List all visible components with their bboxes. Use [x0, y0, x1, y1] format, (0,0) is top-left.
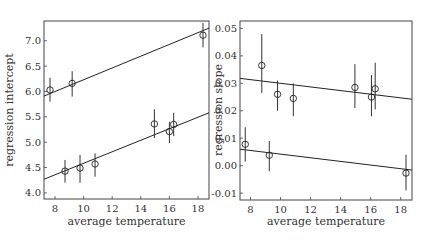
figure: 810121416184.04.55.05.56.06.57.0 8101214…: [0, 0, 429, 240]
y-tick-label: 6.5: [25, 61, 41, 72]
y-tick-label: 5.0: [25, 137, 41, 148]
x-axis-label-slope: average temperature: [267, 215, 385, 228]
x-tick-label: 16: [364, 204, 377, 215]
x-tick-label: 18: [192, 203, 205, 214]
fit-line: [240, 149, 412, 170]
y-tick-label: 4.5: [25, 162, 41, 173]
y-tick-label: 7.0: [25, 35, 41, 46]
plot-frame: [44, 21, 209, 199]
y-tick-label: -0.01: [211, 188, 237, 199]
x-tick-label: 14: [334, 204, 347, 215]
y-tick-label: 0.00: [215, 160, 237, 171]
x-tick-label: 12: [304, 204, 317, 215]
fit-line: [44, 28, 209, 96]
plot-frame: [240, 21, 412, 200]
x-tick-label: 10: [77, 203, 90, 214]
y-tick-label: 4.0: [25, 187, 41, 198]
x-tick-label: 8: [247, 204, 253, 215]
x-tick-label: 12: [106, 203, 119, 214]
y-tick-label: 0.05: [215, 23, 237, 34]
fit-line: [240, 78, 412, 99]
x-axis-label-intercept: average temperature: [67, 215, 185, 228]
x-tick-label: 18: [394, 204, 407, 215]
y-tick-label: 6.0: [25, 86, 41, 97]
y-axis-label-slope: regression slope: [212, 64, 225, 156]
x-tick-label: 14: [134, 203, 147, 214]
slope-panel: 81012141618-0.010.000.010.020.030.040.05: [211, 21, 412, 215]
y-tick-label: 5.5: [25, 111, 41, 122]
intercept-panel: 810121416184.04.55.05.56.06.57.0: [25, 21, 209, 214]
x-tick-label: 8: [52, 203, 58, 214]
y-tick-label: 0.04: [215, 50, 237, 61]
fit-line: [44, 113, 209, 179]
y-axis-label-intercept: regression intercept: [3, 53, 16, 167]
x-tick-label: 16: [163, 203, 176, 214]
x-tick-label: 10: [274, 204, 287, 215]
